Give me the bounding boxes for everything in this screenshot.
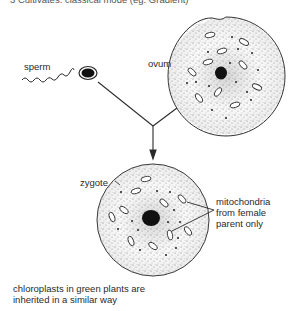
mitochondria-label-line2: from female: [216, 207, 266, 218]
zygote-label: zygote: [80, 177, 108, 188]
sperm-nucleus: [82, 69, 95, 78]
fusion-lines: [98, 82, 177, 159]
mitochondria-label-line1: mitochondria: [216, 196, 270, 207]
sperm-label: sperm: [24, 61, 50, 72]
zygote-nucleus: [142, 210, 160, 226]
footnote-line2: inherited in a similar way: [13, 294, 117, 305]
inheritance-diagram: [0, 0, 291, 311]
sperm-connector-line: [98, 82, 153, 126]
footnote-line1: chloroplasts in green plants are: [13, 283, 145, 294]
ovum-label: ovum: [148, 58, 171, 69]
mitochondria-label-line3: parent only: [216, 218, 263, 229]
arrow-head-icon: [150, 150, 156, 159]
ovum-cell: [168, 17, 285, 136]
ovum-connector-line: [153, 108, 177, 126]
ovum-nucleus: [215, 67, 227, 80]
zygote-cell: [97, 164, 209, 276]
